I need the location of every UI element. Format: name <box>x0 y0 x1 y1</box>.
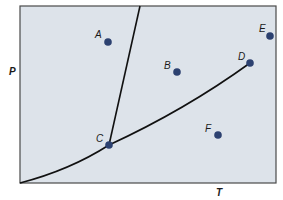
y-axis-label: P <box>9 66 16 77</box>
phase-diagram: A B C D E F P T <box>0 0 283 200</box>
point-label: E <box>259 23 266 34</box>
x-axis-label: T <box>216 187 223 198</box>
point-marker <box>214 131 222 139</box>
point-label: F <box>205 123 212 134</box>
point-label: A <box>94 29 102 40</box>
point-marker <box>246 59 254 67</box>
point-marker <box>173 68 181 76</box>
point-marker <box>266 32 274 40</box>
point-marker <box>105 141 113 149</box>
point-label: B <box>164 60 171 71</box>
plot-area <box>20 6 276 183</box>
point-label: D <box>238 51 245 62</box>
point-marker <box>104 38 112 46</box>
point-label: C <box>96 133 104 144</box>
